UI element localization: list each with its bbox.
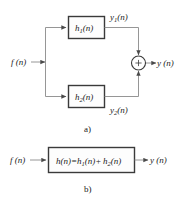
label-signal-y2: y2(n) [109,105,128,116]
label-block-h2: h2(n) [75,92,93,103]
label-output-a: y (n) [156,58,174,68]
output-wire-h1-to-adder [105,28,139,56]
caption-b: b) [84,184,92,194]
caption-a: a) [84,124,91,134]
label-block-h1: h1(n) [75,23,93,34]
output-wire-h2-to-adder [105,71,139,97]
label-signal-y1: y1(n) [109,12,128,23]
part-b-diagram: f (n) h(n)=h1(n)+h2(n) y (n) b) [10,148,167,195]
label-block-h-combined: h(n)=h1(n)+h2(n) [56,156,121,167]
block-diagram-figure: f (n) h1(n) h2(n) y1(n) y2(n) y (n) a) f… [0,0,180,203]
part-a-diagram: f (n) h1(n) h2(n) y1(n) y2(n) y (n) a) [11,12,174,134]
label-output-b: y (n) [149,155,167,165]
label-input-b: f (n) [10,155,25,165]
label-input-a: f (n) [11,57,26,67]
